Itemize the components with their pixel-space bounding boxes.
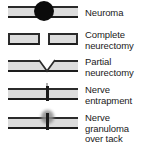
granuloma-tack-icon	[46, 113, 49, 130]
legend-label-complete-neurectomy: Complete neurectomy	[85, 30, 150, 51]
nerve-segment-distal	[48, 33, 78, 45]
nerve-segment-proximal	[8, 33, 40, 45]
partial-wedge-cut-icon	[36, 58, 58, 74]
nerve-trunk	[8, 88, 78, 100]
legend-label-neuroma: Neuroma	[85, 8, 150, 19]
nerve-condition-legend-figure: Neuroma Complete neurectomy Partial neur…	[0, 0, 150, 160]
glyph-nerve-granuloma-over-tack	[8, 0, 78, 30]
entrapment-tack-icon	[46, 86, 49, 101]
legend-label-nerve-entrapment: Nerve entrapment	[85, 85, 150, 106]
legend-label-partial-neurectomy: Partial neurectomy	[85, 57, 150, 78]
legend-label-nerve-granuloma-over-tack: Nerve granuloma over tack	[85, 113, 150, 145]
